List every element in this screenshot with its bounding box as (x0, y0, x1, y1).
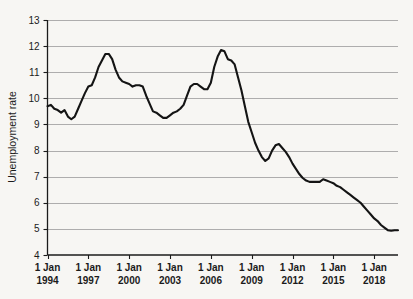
x-axis-tick-label-day: 1 Jan (35, 262, 61, 273)
x-axis-tick-label-year: 2009 (241, 275, 264, 286)
y-axis-tick-label: 5 (34, 223, 40, 234)
x-axis-tick-label-day: 1 Jan (321, 262, 347, 273)
x-axis-tick-label-day: 1 Jan (157, 262, 183, 273)
y-axis-tick-label: 11 (29, 67, 40, 78)
x-axis-tick-label-year: 2015 (322, 275, 345, 286)
y-axis-tick-label: 7 (34, 171, 40, 182)
unemployment-rate-line-chart: 13121110987654 1 Jan19941 Jan19971 Jan20… (0, 0, 413, 299)
chart-figure: 13121110987654 1 Jan19941 Jan19971 Jan20… (0, 0, 413, 299)
x-axis-tick-label-day: 1 Jan (280, 262, 306, 273)
x-axis-tick-label-year: 1994 (36, 275, 59, 286)
x-axis-tick-label-day: 1 Jan (198, 262, 224, 273)
x-axis-tick-label-year: 2018 (363, 275, 386, 286)
y-axis-tick-label: 10 (28, 93, 40, 104)
chart-background (0, 0, 413, 299)
y-axis-tick-label: 9 (34, 119, 40, 130)
x-axis-tick-label-year: 1997 (77, 275, 100, 286)
y-axis-tick-label: 6 (34, 197, 40, 208)
y-axis-title: Unemployment rate (6, 91, 18, 183)
y-axis-tick-label: 13 (28, 15, 40, 26)
x-axis-tick-label-day: 1 Jan (239, 262, 265, 273)
x-axis-tick-label-year: 2000 (118, 275, 141, 286)
x-axis-tick-label-year: 2006 (200, 275, 223, 286)
x-axis-tick-label-day: 1 Jan (116, 262, 142, 273)
y-axis-tick-label: 8 (34, 145, 40, 156)
x-axis-tick-label-day: 1 Jan (76, 262, 102, 273)
x-axis-tick-label-year: 2003 (159, 275, 182, 286)
x-axis-tick-label-year: 2012 (281, 275, 304, 286)
y-axis-tick-label: 4 (34, 250, 40, 261)
y-axis-tick-label: 12 (28, 41, 40, 52)
x-axis-tick-label-day: 1 Jan (361, 262, 387, 273)
